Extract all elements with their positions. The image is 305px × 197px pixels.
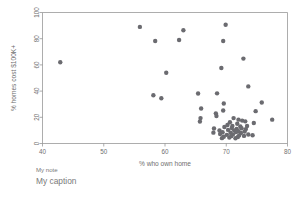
data-point	[242, 134, 246, 138]
x-tick-label: 80	[284, 148, 292, 155]
chart-page: 4050607080020406080100% who own home% ho…	[0, 0, 305, 197]
data-point	[260, 100, 264, 104]
data-point	[233, 136, 237, 140]
y-tick-label: 80	[33, 35, 40, 43]
data-point	[159, 96, 163, 100]
chart-caption: My caption	[36, 176, 77, 186]
x-tick-label: 50	[100, 148, 108, 155]
data-point	[198, 119, 202, 123]
y-tick-label: 0	[33, 141, 40, 145]
data-point	[221, 108, 225, 112]
data-point	[211, 130, 215, 134]
data-point	[215, 91, 219, 95]
y-tick-label: 60	[33, 61, 40, 69]
data-point	[196, 91, 200, 95]
data-point	[138, 25, 142, 29]
data-point	[242, 129, 246, 133]
data-point	[164, 71, 168, 75]
data-point	[253, 109, 257, 113]
y-tick-label: 100	[33, 7, 40, 18]
x-tick-label: 40	[39, 148, 47, 155]
data-point	[218, 132, 222, 136]
data-point	[241, 56, 245, 60]
y-tick-label: 20	[33, 113, 40, 121]
data-point	[153, 39, 157, 43]
data-point	[246, 132, 250, 136]
axes-group	[40, 13, 288, 147]
data-point	[223, 22, 227, 26]
x-axis-title: % who own home	[139, 160, 191, 167]
data-point	[199, 106, 203, 110]
data-point	[222, 125, 226, 129]
scatter-plot: 4050607080020406080100% who own home% ho…	[0, 0, 305, 197]
data-point	[177, 38, 181, 42]
data-point	[220, 136, 224, 140]
plot-frame	[43, 13, 288, 144]
data-point	[252, 121, 256, 125]
x-tick-label: 70	[223, 148, 231, 155]
data-point	[250, 133, 254, 137]
data-point	[58, 60, 62, 64]
data-point	[236, 117, 240, 121]
data-point	[270, 117, 274, 121]
data-point	[227, 135, 231, 139]
y-tick-label: 40	[33, 87, 40, 95]
data-point	[231, 116, 235, 120]
data-point	[214, 114, 218, 118]
data-point	[151, 93, 155, 97]
y-axis-title: % homes cost $100K+	[10, 45, 17, 111]
data-point	[222, 101, 226, 105]
chart-note: My note	[36, 166, 58, 173]
axis-labels-group: 4050607080020406080100% who own home% ho…	[10, 7, 292, 186]
data-point	[243, 119, 247, 123]
data-points-group	[58, 22, 274, 140]
data-point	[219, 66, 223, 70]
data-point	[212, 126, 216, 130]
data-point	[246, 84, 250, 88]
x-tick-label: 60	[161, 148, 169, 155]
data-point	[221, 39, 225, 43]
data-point	[181, 28, 185, 32]
